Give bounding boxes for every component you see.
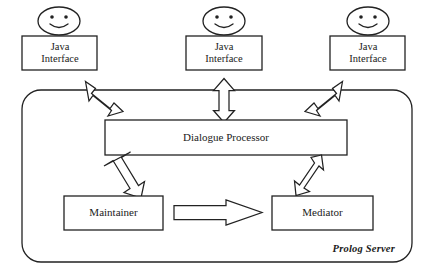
java-interface-box: [186, 36, 262, 70]
java-interface-box: [22, 36, 97, 70]
java-interface-box: [330, 36, 405, 70]
dialogue-to-maintainer-arrow: [104, 152, 145, 198]
iface1-to-dialogue-arrow: [86, 82, 124, 117]
dialogue-processor-box: [105, 120, 347, 155]
iface3-to-dialogue-arrow: [305, 82, 343, 117]
maintainer-to-mediator-arrow: [174, 200, 262, 225]
iface2-to-dialogue-arrow: [214, 79, 235, 123]
maintainer-box: [64, 196, 163, 230]
diagram-canvas: Java Interface Java Interface Java Inter…: [0, 0, 441, 276]
smiley-face-icon: [347, 7, 389, 35]
prolog-server-boundary: [22, 90, 412, 262]
diagram-vector-layer: [0, 0, 441, 276]
smiley-face-icon: [38, 7, 80, 35]
mediator-box: [272, 196, 373, 230]
dialogue-to-mediator-arrow: [295, 155, 324, 196]
smiley-face-icon: [203, 7, 245, 35]
